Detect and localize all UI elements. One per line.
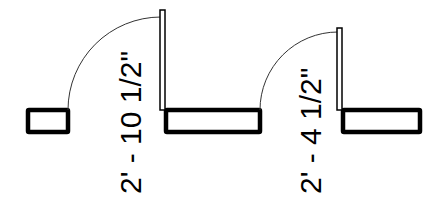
door-1: 2' - 10 1/2"	[68, 10, 165, 194]
door-2-dimension-label: 2' - 4 1/2"	[294, 68, 327, 194]
door-1-dimension-label: 2' - 10 1/2"	[114, 51, 147, 194]
door-1-leaf	[160, 10, 165, 110]
door-2: 2' - 4 1/2"	[260, 28, 342, 194]
wall-right	[343, 110, 420, 132]
wall-middle	[166, 110, 260, 132]
wall-left	[28, 110, 68, 132]
door-plan-diagram: 2' - 10 1/2" 2' - 4 1/2"	[0, 0, 441, 200]
door-2-leaf	[337, 28, 342, 110]
